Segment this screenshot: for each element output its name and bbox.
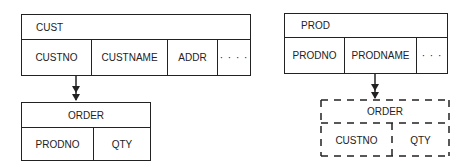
- double-arrow-icon: [72, 76, 80, 101]
- dashed-segment-border: [321, 100, 449, 156]
- connector-overlay: [0, 0, 467, 167]
- double-arrow-icon: [371, 74, 379, 99]
